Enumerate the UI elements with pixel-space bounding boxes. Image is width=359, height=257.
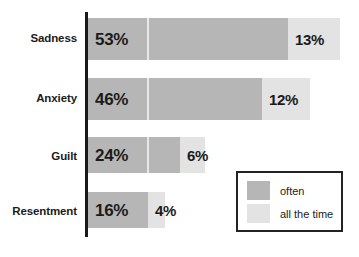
legend-item-often: often <box>247 179 341 202</box>
legend-swatch-all-the-time <box>247 204 270 223</box>
stacked-bar-chart: Sadness 53% 13% Anxiety 46% 12% Guilt 24… <box>0 0 359 257</box>
gridline <box>147 137 149 173</box>
gridline <box>147 78 149 120</box>
legend-label-often: often <box>280 185 304 197</box>
bar-segment-often: 53% <box>88 18 288 60</box>
bar-segment-often: 46% <box>88 78 262 120</box>
bar-value-label-often: 24% <box>95 147 128 164</box>
legend: often all the time <box>236 171 343 232</box>
category-label-resentment: Resentment <box>12 205 77 217</box>
bar-value-label-all-the-time: 4% <box>155 203 176 218</box>
bar-value-label-all-the-time: 12% <box>269 92 298 107</box>
gridline <box>147 18 149 60</box>
bar-row: 53% 13% <box>88 18 340 60</box>
legend-item-all-the-time: all the time <box>247 202 341 225</box>
bar-segment-all-the-time: 13% <box>288 18 340 60</box>
bar-segment-all-the-time: 4% <box>148 192 165 228</box>
legend-label-all-the-time: all the time <box>280 208 333 220</box>
category-label-anxiety: Anxiety <box>36 92 77 104</box>
bar-segment-all-the-time: 12% <box>262 78 310 120</box>
bar-segment-often: 16% <box>88 192 148 228</box>
bar-value-label-all-the-time: 13% <box>295 32 324 47</box>
bar-value-label-often: 53% <box>95 31 128 48</box>
bar-segment-all-the-time: 6% <box>180 137 205 173</box>
category-label-guilt: Guilt <box>51 150 77 162</box>
category-label-sadness: Sadness <box>30 32 77 44</box>
legend-swatch-often <box>247 181 270 200</box>
bar-row: 46% 12% <box>88 78 310 120</box>
bar-row: 16% 4% <box>88 192 165 228</box>
bar-value-label-all-the-time: 6% <box>187 148 208 163</box>
bar-value-label-often: 46% <box>95 91 128 108</box>
bar-value-label-often: 16% <box>95 202 128 219</box>
bar-segment-often: 24% <box>88 137 180 173</box>
